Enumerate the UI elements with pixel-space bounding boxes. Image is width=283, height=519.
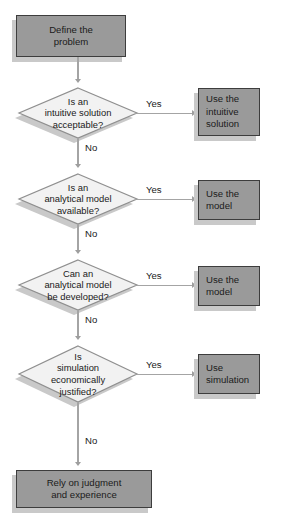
arrowhead-decision-2-no <box>75 250 81 254</box>
decision-label: Is an intuitive solution acceptable? <box>15 84 141 142</box>
process-box-label: Rely on judgment and experience <box>17 477 151 502</box>
decision-diamond-analytical-model-developed[interactable]: Can an analytical model be developed? <box>15 256 141 314</box>
arrowhead-decision-4-no <box>75 462 81 466</box>
decision-diamond-simulation-justified[interactable]: Is simulation economically justified? <box>15 342 141 406</box>
connector-decision-1-yes <box>137 113 194 114</box>
connector-decision-2-yes <box>137 199 194 200</box>
process-box-rely-on-judgment[interactable]: Rely on judgment and experience <box>16 470 152 508</box>
arrowhead-decision-4-yes <box>192 371 196 377</box>
process-box-label: Use the intuitive solution <box>199 93 259 130</box>
connector-start-to-decision-1 <box>77 57 78 81</box>
edge-label-decision-4-no: No <box>85 436 97 446</box>
arrowhead-decision-1-yes <box>192 110 196 116</box>
process-box-label: Use the model <box>199 274 259 299</box>
process-box-label: Use simulation <box>199 362 259 387</box>
decision-label: Is simulation economically justified? <box>15 342 141 406</box>
arrowhead-decision-3-no <box>75 336 81 340</box>
arrowhead-decision-3-yes <box>192 282 196 288</box>
connector-decision-2-no <box>77 224 78 252</box>
decision-diamond-analytical-model-available[interactable]: Is an analytical model available? <box>15 170 141 228</box>
process-box-use-intuitive-solution[interactable]: Use the intuitive solution <box>198 88 260 136</box>
decision-diamond-intuitive-solution[interactable]: Is an intuitive solution acceptable? <box>15 84 141 142</box>
connector-decision-3-no <box>77 310 78 338</box>
connector-decision-4-yes <box>137 374 194 375</box>
edge-label-decision-4-yes: Yes <box>146 360 162 370</box>
connector-decision-4-no <box>77 402 78 464</box>
decision-label: Is an analytical model available? <box>15 170 141 228</box>
arrowhead-decision-2-yes <box>192 196 196 202</box>
edge-label-decision-2-no: No <box>85 229 97 239</box>
edge-label-decision-3-no: No <box>85 315 97 325</box>
process-box-label: Use the model <box>199 188 259 213</box>
edge-label-decision-2-yes: Yes <box>146 185 162 195</box>
process-box-use-simulation[interactable]: Use simulation <box>198 354 260 394</box>
arrowhead-start-to-decision-1 <box>75 79 81 83</box>
connector-decision-1-no <box>77 138 78 166</box>
flowchart-canvas: Define the problem Is an intuitive solut… <box>0 0 283 519</box>
edge-label-decision-1-no: No <box>85 143 97 153</box>
process-box-use-model-2[interactable]: Use the model <box>198 266 260 306</box>
decision-label: Can an analytical model be developed? <box>15 256 141 314</box>
edge-label-decision-1-yes: Yes <box>146 99 162 109</box>
edge-label-decision-3-yes: Yes <box>146 271 162 281</box>
arrowhead-decision-1-no <box>75 164 81 168</box>
connector-decision-3-yes <box>137 285 194 286</box>
process-box-define-problem[interactable]: Define the problem <box>16 15 126 57</box>
process-box-label: Define the problem <box>17 24 125 49</box>
process-box-use-model-1[interactable]: Use the model <box>198 180 260 220</box>
